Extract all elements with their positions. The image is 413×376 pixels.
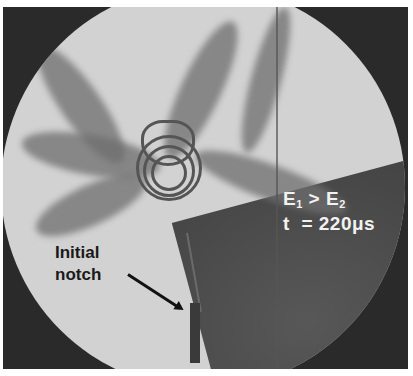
fringe-lobe bbox=[232, 7, 300, 156]
e1-letter: E bbox=[283, 188, 296, 209]
modulus-condition-label: E1 > E2 bbox=[283, 188, 346, 215]
e1-subscript: 1 bbox=[296, 198, 303, 210]
photo-frame bbox=[3, 7, 408, 369]
time-label: t = 220μs bbox=[283, 213, 375, 235]
initial-notch bbox=[190, 303, 200, 363]
e2-subscript: 2 bbox=[339, 198, 346, 210]
vertical-scratch-line bbox=[276, 7, 278, 369]
notch-label-line2: notch bbox=[55, 264, 101, 285]
notch-label-line1: Initial bbox=[55, 242, 99, 263]
fringe-ring bbox=[141, 120, 195, 166]
greater-than: > bbox=[303, 188, 326, 209]
e2-letter: E bbox=[326, 188, 339, 209]
